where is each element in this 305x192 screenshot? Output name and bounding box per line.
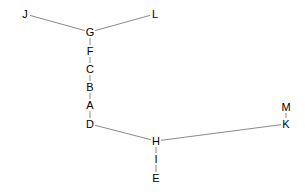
node-H: H	[152, 135, 160, 147]
node-E: E	[152, 172, 159, 184]
node-M: M	[281, 101, 290, 113]
nodes: JLGFCBADHIEKM	[20, 8, 291, 184]
node-B: B	[86, 81, 93, 93]
edge-D-H	[90, 124, 156, 141]
edge-L-G	[90, 14, 155, 32]
node-I: I	[154, 153, 157, 165]
node-L: L	[152, 8, 158, 20]
node-A: A	[86, 99, 94, 111]
edge-J-G	[25, 14, 90, 32]
node-J: J	[22, 8, 28, 20]
tree-diagram: JLGFCBADHIEKM	[0, 0, 305, 192]
node-F: F	[87, 45, 94, 57]
node-C: C	[86, 63, 94, 75]
node-K: K	[282, 118, 290, 130]
edge-H-K	[156, 124, 286, 141]
node-G: G	[86, 26, 95, 38]
node-D: D	[86, 118, 94, 130]
